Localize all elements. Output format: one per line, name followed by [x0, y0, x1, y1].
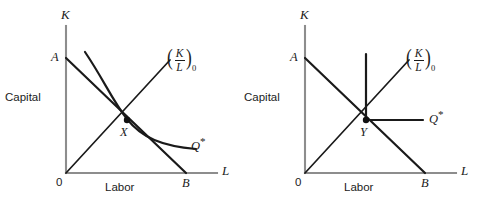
isoquant-label: Q*: [191, 139, 206, 154]
x-axis-name: Labor: [105, 182, 134, 194]
kl-denominator: L: [176, 61, 182, 73]
x-axis-symbol: L: [461, 164, 468, 177]
panel-fixed-proportions: K L Capital Labor 0 A B Y Q* ( K L ) 0: [239, 0, 478, 217]
capital-labor-ratio-label: ( K L ) 0: [166, 46, 196, 74]
left-paren: (: [406, 46, 412, 68]
capital-labor-ratio-label: ( K L ) 0: [405, 46, 435, 74]
y-axis-name: Capital: [244, 92, 280, 104]
y-axis-symbol: K: [61, 8, 70, 21]
left-paren: (: [167, 46, 173, 68]
capital-labor-ratio-ray: [66, 60, 170, 173]
optimum-point-dot: [124, 117, 130, 123]
kl-denominator: L: [415, 61, 421, 73]
isocost-l-intercept-label: B: [421, 177, 429, 190]
optimum-point-label: X: [120, 126, 128, 139]
x-axis-name: Labor: [344, 182, 373, 194]
y-axis-symbol: K: [300, 8, 309, 21]
x-axis-symbol: L: [222, 164, 229, 177]
kl-numerator: K: [176, 47, 184, 59]
optimum-point-dot: [363, 117, 369, 123]
y-axis-name: Capital: [5, 92, 41, 104]
isocost-k-intercept-label: A: [51, 51, 59, 64]
isocost-line: [66, 58, 186, 173]
isoquant-label: Q*: [429, 112, 444, 127]
kl-numerator: K: [415, 47, 423, 59]
origin-label: 0: [56, 177, 62, 189]
isoquant-label-text: Q*: [429, 112, 444, 126]
origin-label: 0: [295, 177, 301, 189]
panel-smooth-substitution: K L Capital Labor 0 A B X Q* ( K L ) 0: [0, 0, 239, 217]
kl-fraction: K L: [413, 46, 424, 74]
asterisk-glyph: *: [200, 135, 206, 147]
isocost-l-intercept-label: B: [182, 177, 190, 190]
isoquant-isocost-figure: K L Capital Labor 0 A B X Q* ( K L ) 0: [0, 0, 478, 217]
right-paren: ): [186, 46, 192, 68]
kl-subscript: 0: [192, 63, 196, 74]
isocost-k-intercept-label: A: [290, 51, 298, 64]
right-paren: ): [425, 46, 431, 68]
isoquant-label-text: Q*: [191, 139, 206, 153]
optimum-point-label: Y: [360, 126, 367, 139]
kl-subscript: 0: [431, 63, 435, 74]
capital-labor-ratio-ray: [305, 60, 409, 173]
kl-fraction: K L: [174, 46, 185, 74]
asterisk-glyph: *: [438, 108, 444, 120]
